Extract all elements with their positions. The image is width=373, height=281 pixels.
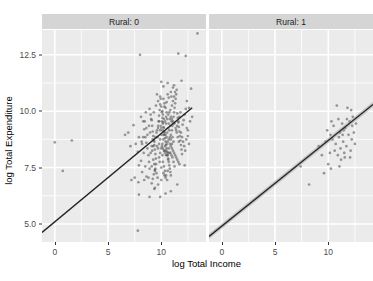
x-axis-title: log Total Income: [40, 258, 373, 269]
facet-panel: Rural: 0: [42, 14, 206, 242]
panel-canvas: [209, 30, 373, 242]
facet-strip-label: Rural: 0: [42, 14, 206, 29]
chart-root: log Total Expenditure log Total Income 5…: [0, 0, 373, 281]
y-tick-label: 7.5: [4, 163, 36, 173]
x-tick-label: 10: [324, 247, 333, 257]
regression-line: [209, 104, 373, 236]
facet-panel: Rural: 1: [209, 14, 373, 242]
x-tick-mark: [108, 242, 109, 245]
x-tick-mark: [161, 242, 162, 245]
x-tick-label: 10: [157, 247, 166, 257]
regression-line: [42, 108, 192, 233]
scatter-points: [53, 32, 198, 232]
y-tick-label: 10.0: [4, 106, 36, 116]
facet-strip-label: Rural: 1: [209, 14, 373, 29]
x-tick-mark: [275, 242, 276, 245]
panel-canvas: [42, 30, 206, 242]
x-tick-label: 0: [219, 247, 224, 257]
x-tick-label: 5: [273, 247, 278, 257]
x-tick-mark: [55, 242, 56, 245]
y-tick-label: 12.5: [4, 50, 36, 60]
x-tick-mark: [222, 242, 223, 245]
plot-panel: [209, 30, 373, 242]
y-axis-title: log Total Expenditure: [0, 0, 17, 281]
plot-panel: [42, 30, 206, 242]
y-tick-label: 5.0: [4, 219, 36, 229]
x-tick-mark: [328, 242, 329, 245]
x-tick-label: 5: [106, 247, 111, 257]
x-tick-label: 0: [52, 247, 57, 257]
